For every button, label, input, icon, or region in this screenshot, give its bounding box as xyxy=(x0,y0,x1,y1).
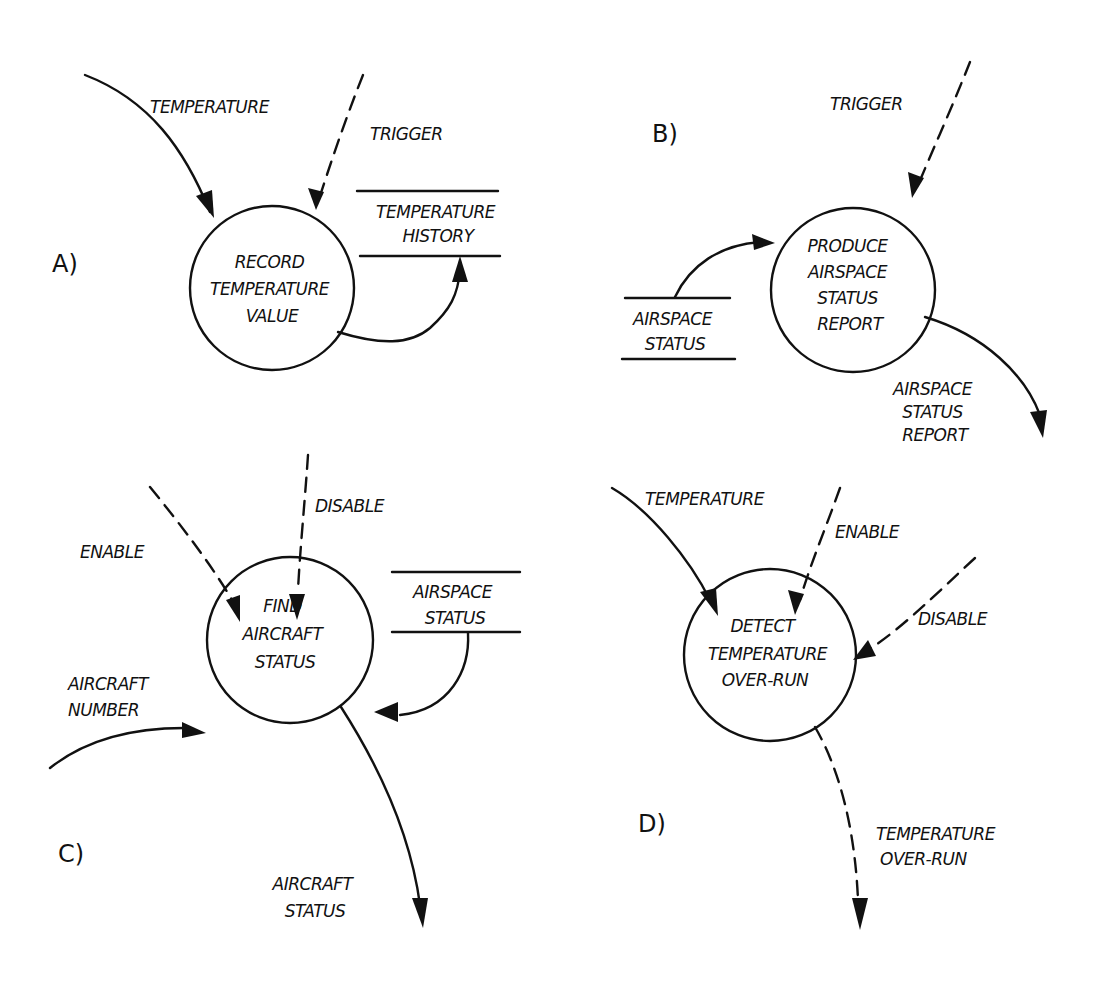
flow-label-trigger: TRIGGER xyxy=(370,124,443,144)
flow-temperature-in xyxy=(85,75,210,212)
panel-c: C) ENABLE DISABLE FIND AIRCRAFT STATUS A… xyxy=(50,455,520,928)
flow-trigger-in xyxy=(318,75,363,202)
arrowhead-icon xyxy=(788,590,804,615)
arrowhead-icon xyxy=(852,898,868,930)
process-label-c: FIND AIRCRAFT STATUS xyxy=(242,596,328,672)
process-label-b: PRODUCE AIRSPACE STATUS REPORT xyxy=(807,236,892,334)
store-temperature-history: TEMPERATURE HISTORY xyxy=(376,202,500,246)
arrowhead-icon xyxy=(196,190,214,218)
flow-from-airspace-status xyxy=(675,242,760,297)
flow-label-aircraft-number: AIRCRAFT NUMBER xyxy=(67,674,153,720)
flow-from-airspace-status-c xyxy=(400,633,468,715)
arrowhead-icon xyxy=(1030,410,1047,438)
flow-label-aircraft-status: AIRCRAFT STATUS xyxy=(272,874,358,921)
panel-label-b: B) xyxy=(652,120,678,148)
flow-label-temperature: TEMPERATURE xyxy=(150,97,270,117)
flow-label-enable-d: ENABLE xyxy=(835,522,900,542)
panel-label-d: D) xyxy=(638,810,666,838)
flow-label-temperature-d: TEMPERATURE xyxy=(645,489,765,509)
flow-label-disable-c: DISABLE xyxy=(315,496,385,516)
arrowhead-icon xyxy=(452,256,468,282)
flow-label-trigger-b: TRIGGER xyxy=(830,94,903,114)
panel-label-c: C) xyxy=(58,840,84,868)
arrowhead-icon xyxy=(412,898,428,928)
flow-label-temperature-over-run: TEMPERATURE OVER-RUN xyxy=(876,824,1000,869)
arrowhead-icon xyxy=(226,595,240,622)
arrowhead-icon xyxy=(182,722,206,738)
flow-airspace-status-report-out xyxy=(925,317,1040,415)
store-airspace-status-b: AIRSPACE STATUS xyxy=(632,309,717,354)
flow-temperature-over-run-out xyxy=(815,727,858,900)
flow-label-disable-d: DISABLE xyxy=(918,609,988,629)
flow-disable-in-c xyxy=(298,455,308,590)
panel-b: B) TRIGGER PRODUCE AIRSPACE STATUS REPOR… xyxy=(622,62,1047,445)
process-label-d: DETECT TEMPERATURE OVER-RUN xyxy=(708,616,832,690)
data-flow-diagram: A) TEMPERATURE TRIGGER RECORD TEMPERATUR… xyxy=(0,0,1106,994)
panel-d: D) TEMPERATURE ENABLE DISABLE DETECT TEM… xyxy=(612,488,1000,930)
flow-label-airspace-status-report: AIRSPACE STATUS REPORT xyxy=(892,379,977,445)
panel-a: A) TEMPERATURE TRIGGER RECORD TEMPERATUR… xyxy=(52,75,500,370)
panel-label-a: A) xyxy=(52,250,78,278)
process-label-a: RECORD TEMPERATURE VALUE xyxy=(210,252,334,326)
arrowhead-icon xyxy=(374,702,398,722)
flow-enable-in-d xyxy=(800,488,840,600)
flow-aircraft-number-in xyxy=(50,728,190,768)
arrowhead-icon xyxy=(752,234,775,250)
flow-label-enable-c: ENABLE xyxy=(80,542,145,562)
flow-to-temperature-history xyxy=(338,270,460,341)
flow-disable-in-d xyxy=(868,558,975,650)
store-airspace-status-c: AIRSPACE STATUS xyxy=(412,582,497,628)
flow-trigger-in-b xyxy=(918,62,970,185)
flow-enable-in-c xyxy=(150,487,235,605)
